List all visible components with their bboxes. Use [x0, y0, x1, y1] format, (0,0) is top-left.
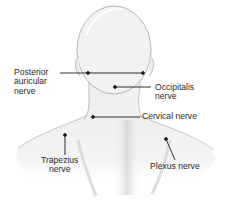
- head-shoulders-illustration: [0, 0, 226, 209]
- cervical-point: [92, 116, 95, 119]
- occipitalis-label: Occipitalis nerve: [155, 83, 194, 102]
- occipitalis-point: [114, 86, 117, 89]
- cervical-label: Cervical nerve: [142, 112, 197, 121]
- spine-shading: [112, 120, 142, 195]
- trapezius-label: Trapezius nerve: [41, 156, 78, 175]
- plexus-point: [165, 138, 168, 141]
- trapezius-point: [64, 134, 67, 137]
- plexus-label: Plexus nerve: [150, 162, 200, 171]
- posterior-auricular-label: Posterior auricular nerve: [14, 68, 48, 96]
- posterior-auricular-point-left: [87, 72, 90, 75]
- nerve-diagram: Posterior auricular nerve Occipitalis ne…: [0, 0, 226, 209]
- posterior-auricular-point-right: [142, 72, 145, 75]
- head-shape: [77, 6, 151, 94]
